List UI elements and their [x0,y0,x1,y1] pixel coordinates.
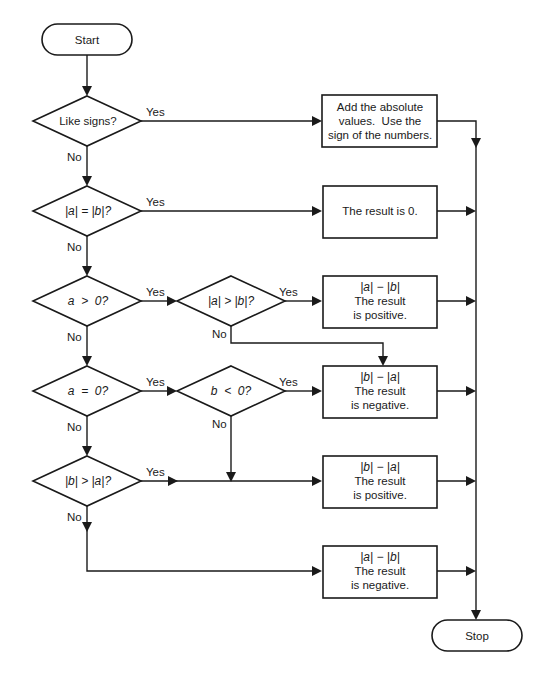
arrow-right-icon [312,476,322,486]
result-zero: The result is 0. [323,186,437,238]
decision-b-negative-label: b < 0? [211,384,252,398]
no-label: No [212,418,227,430]
result-line: The result is 0. [342,205,417,217]
decision-a-zero-label: a = 0? [68,384,109,398]
terminal-start-label: Start [75,34,100,46]
result-formula: |a| − |b| [360,550,400,564]
yes-label: Yes [146,466,165,478]
arrow-right-icon [168,476,178,486]
no-label: No [67,421,82,433]
terminal-stop: Stop [432,620,522,651]
arrow-down-icon [82,176,92,186]
arrow-down-icon [82,356,92,366]
decision-a-zero: a = 0? [33,366,141,416]
decision-like-signs: Like signs? [33,96,141,146]
result-line: The result [354,565,406,577]
no-label: No [212,328,227,340]
result-add-abs: Add the absolute values. Use the sign of… [322,95,437,147]
result-a-minus-b-positive: |a| − |b| The result is positive. [323,276,437,328]
decision-abs-equal: |a| = |b|? [33,186,141,236]
arrow-right-icon [466,206,476,216]
arrow-down-icon [82,266,92,276]
arrow-right-icon [312,116,322,126]
arrow-down-icon [378,356,388,366]
result-formula: |b| − |a| [360,460,400,474]
decision-a-positive: a > 0? [33,276,141,326]
terminal-start: Start [42,24,132,55]
arrow-right-icon [466,386,476,396]
result-line: sign of the numbers. [328,129,432,141]
arrow-right-icon [466,476,476,486]
result-b-minus-a-negative: |b| − |a| The result is negative. [323,366,437,418]
decision-abs-b-gt-abs-a-label: |b| > |a|? [65,474,111,488]
result-line: is positive. [353,309,407,321]
no-label: No [67,241,82,253]
result-line: Add the absolute [337,101,423,113]
arrow-right-icon [312,206,322,216]
result-line: The result [354,475,406,487]
arrow-down-icon [82,522,92,532]
result-line: The result [354,385,406,397]
arrow-right-icon [466,296,476,306]
arrow-down-icon [82,446,92,456]
decision-like-signs-label: Like signs? [59,115,117,127]
arrow-right-icon [466,566,476,576]
result-formula: |b| − |a| [360,370,400,384]
result-a-minus-b-negative: |a| − |b| The result is negative. [323,546,437,598]
yes-label: Yes [146,286,165,298]
decision-b-negative: b < 0? [177,366,285,416]
flowchart-canvas: Start Stop Like signs? |a| = |b|? a > 0?… [0,0,556,676]
result-line: values. Use the [339,115,421,127]
arrow-right-icon [312,566,322,576]
yes-label: Yes [279,286,298,298]
result-b-minus-a-positive: |b| − |a| The result is positive. [323,456,437,508]
result-line: is positive. [353,489,407,501]
yes-label: Yes [279,376,298,388]
arrow-right-icon [312,386,322,396]
decision-abs-equal-label: |a| = |b|? [65,204,111,218]
decision-abs-a-gt-abs-b-label: |a| > |b|? [208,294,254,308]
result-formula: |a| − |b| [360,280,400,294]
arrow-down-icon [471,610,481,620]
arrow-down-icon [82,86,92,96]
result-line: is negative. [351,579,409,591]
no-label: No [67,331,82,343]
result-line: The result [354,295,406,307]
arrow-down-icon [471,138,481,148]
no-label: No [67,511,82,523]
decision-abs-b-gt-abs-a: |b| > |a|? [33,456,141,506]
arrow-right-icon [312,296,322,306]
yes-label: Yes [146,376,165,388]
decision-abs-a-gt-abs-b: |a| > |b|? [177,276,285,326]
no-label: No [67,151,82,163]
terminal-stop-label: Stop [465,630,489,642]
yes-label: Yes [146,106,165,118]
result-line: is negative. [351,399,409,411]
yes-label: Yes [146,196,165,208]
decision-a-positive-label: a > 0? [68,294,109,308]
